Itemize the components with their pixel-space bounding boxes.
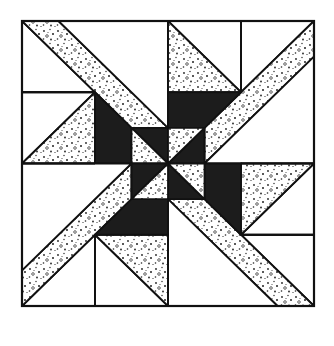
quilt-block-diagram xyxy=(0,0,334,346)
